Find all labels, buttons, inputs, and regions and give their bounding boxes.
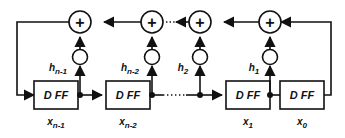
multiplier-circle-n-2 xyxy=(145,50,160,65)
state-sub-n-1: n-1 xyxy=(53,121,66,130)
adder-symbol-0: + xyxy=(265,14,274,31)
register-label-n-1: D FF xyxy=(44,89,69,101)
coeff-label-n-1: hn-1 xyxy=(49,62,68,76)
coeff-label-n-2: hn-2 xyxy=(121,62,140,76)
coeff-sub-n-1: n-1 xyxy=(55,67,68,76)
adder-symbol-n-1: + xyxy=(75,14,84,31)
state-label-0: x0 xyxy=(296,116,308,130)
adder-symbol-n-2: + xyxy=(147,14,156,31)
block-diagram-svg: + + + + D FF D FF D FF D FF hn-1 hn-2 h2… xyxy=(0,0,345,138)
coeff-label-1: h2 xyxy=(178,62,189,76)
state-sub-n-2: n-2 xyxy=(125,121,138,130)
state-sub-1: 1 xyxy=(249,121,254,130)
state-sub-0: 0 xyxy=(303,121,308,130)
coeff-sub-1: 2 xyxy=(183,67,189,76)
register-label-0: D FF xyxy=(290,89,315,101)
state-label-n-1: xn-1 xyxy=(46,116,65,130)
state-label-1: x1 xyxy=(242,116,254,130)
state-label-n-2: xn-2 xyxy=(118,116,137,130)
multiplier-circle-0 xyxy=(263,50,278,65)
coeff-label-0: h1 xyxy=(249,62,260,76)
coeff-sub-0: 1 xyxy=(255,67,260,76)
multiplier-circle-1 xyxy=(193,50,208,65)
multiplier-circle-n-1 xyxy=(73,50,88,65)
diagram-canvas: + + + + D FF D FF D FF D FF hn-1 hn-2 h2… xyxy=(0,0,345,138)
register-label-n-2: D FF xyxy=(116,89,141,101)
coeff-sub-n-2: n-2 xyxy=(127,67,140,76)
register-label-1: D FF xyxy=(236,89,261,101)
adder-symbol-1: + xyxy=(195,14,204,31)
